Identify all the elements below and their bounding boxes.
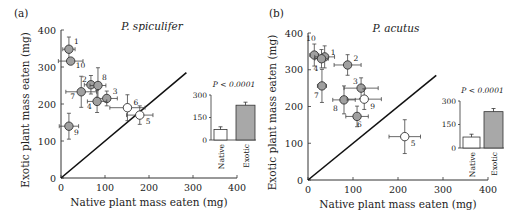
inset-category-label: Exotic [242,144,251,168]
point-label: 3 [353,77,358,86]
point-label: 7 [314,91,319,100]
data-point: 3 [344,77,378,98]
point-label: 3 [113,87,118,96]
inset-category-label: Native [217,143,226,169]
x-tick-label: 0 [305,184,311,195]
y-axis-label: Exotic plant mass eaten (mg) [266,35,278,191]
inset-bar-chart: P < 0.00010150300NativeExotic [442,86,504,177]
figure: (a)P. spiculifer010020030040001002003004… [0,0,525,223]
inset-bar-native [463,137,480,148]
point-label: 10 [76,61,86,70]
inset-y-tick: 150 [193,113,208,122]
y-tick-label: 300 [285,64,303,75]
y-tick-label: 0 [50,173,56,184]
y-tick-label: 400 [285,28,303,39]
point-label: 1 [74,37,79,46]
data-point: 8 [333,86,356,114]
point-label: 9 [370,102,375,111]
chart-title: P. acutus [372,22,420,34]
point-label: 6 [357,120,362,129]
panel-b: (b)P. acutus01002003004000100200300400Na… [266,7,504,210]
point-label: 9 [74,128,79,137]
x-tick-label: 100 [344,184,362,195]
y-tick-label: 400 [38,25,56,36]
inset-category-label: Exotic [490,152,499,176]
point-label: 7 [70,92,75,101]
point-label: 1 [331,48,336,57]
y-tick-label: 0 [297,175,303,186]
reference-line [308,75,436,180]
inset-bar-native [214,130,227,141]
x-tick-label: 400 [228,182,246,193]
x-tick-label: 0 [58,182,64,193]
chart-title: P. spiculifer [120,20,184,32]
inset-category-label: Native [468,151,477,177]
y-tick-label: 100 [38,136,56,147]
y-tick-label: 200 [285,101,303,112]
inset-bar-chart: P < 0.00010150300NativeExotic [193,80,256,169]
point-label: 5 [146,117,151,126]
data-point: 10 [58,57,85,70]
x-tick-label: 300 [434,184,452,195]
point-label: 6 [133,98,138,107]
y-tick-label: 300 [38,62,56,73]
x-axis-label: Native plant mass eaten (mg) [70,196,227,208]
panel-label: (a) [14,7,28,19]
x-tick-label: 200 [140,182,158,193]
point-label: 10 [306,34,316,43]
panel-label: (b) [269,7,284,19]
x-axis-label: Native plant mass eaten (mg) [319,198,476,210]
x-tick-label: 100 [96,182,114,193]
p-value: P < 0.0001 [212,80,255,89]
p-value: P < 0.0001 [460,86,503,95]
x-tick-label: 400 [479,184,497,195]
data-point: 7 [314,69,327,102]
point-label: 4 [87,102,92,111]
point-label: 5 [411,139,416,148]
inset-y-tick: 300 [442,97,457,106]
x-tick-label: 200 [389,184,407,195]
x-tick-label: 300 [184,182,202,193]
inset-y-tick: 150 [442,120,457,129]
y-axis-label: Exotic plant mass eaten (mg) [19,32,31,188]
data-point: 2 [334,54,361,75]
point-label: 8 [102,73,107,82]
point-label: 8 [333,104,338,113]
inset-bar-exotic [484,112,503,148]
panel-a: (a)P. spiculifer010020030040001002003004… [14,7,256,208]
inset-y-tick: 0 [202,136,207,145]
point-label: 4 [314,64,319,73]
data-point: 9 [59,113,79,139]
y-tick-label: 100 [285,138,303,149]
y-tick-label: 200 [38,99,56,110]
inset-y-tick: 0 [451,144,456,153]
inset-y-tick: 300 [193,91,208,100]
data-point: 5 [389,120,421,154]
inset-bar-exotic [236,105,255,140]
point-label: 2 [354,54,359,63]
